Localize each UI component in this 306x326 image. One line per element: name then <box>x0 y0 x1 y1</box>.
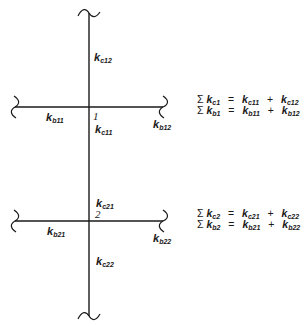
equation-sum-kb1: Σ kb1 = kb11 + kb12 <box>197 104 300 120</box>
label-kc12: kc12 <box>94 51 112 64</box>
label-kb11: kb11 <box>46 111 64 124</box>
label-kc11: kc11 <box>95 123 112 136</box>
frame-drawing <box>0 0 306 326</box>
label-kc22: kc22 <box>96 255 114 268</box>
equation-sum-kb2: Σ kb2 = kb21 + kb22 <box>197 218 300 234</box>
node-1-label: 1 <box>93 110 99 122</box>
label-kb21: kb21 <box>47 225 65 238</box>
label-kb12: kb12 <box>153 118 171 131</box>
label-kb22: kb22 <box>153 232 171 245</box>
node-2-label: 2 <box>95 208 101 220</box>
